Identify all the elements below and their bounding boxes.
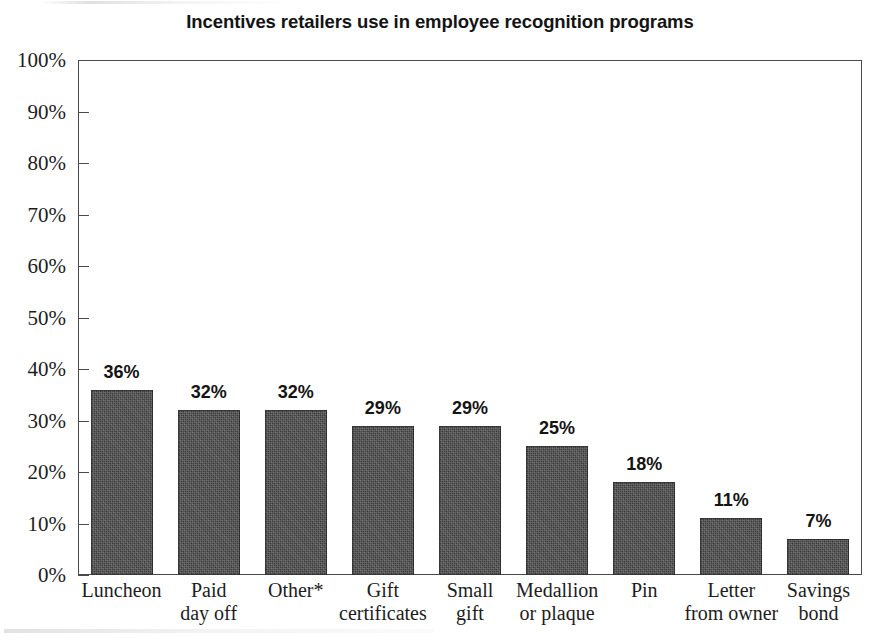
chart-title: Incentives retailers use in employee rec… [0,11,880,33]
y-axis-tick [78,421,89,422]
y-axis-tick-label: 70% [28,204,67,225]
y-axis-tick [78,472,89,473]
x-axis-category-label: Savingsbond [766,579,870,625]
bar [526,446,588,575]
y-axis-tick-label: 20% [28,462,67,483]
bar [787,539,849,575]
bar-group: 7% [787,60,849,575]
bar-value-label: 32% [166,382,252,403]
scan-artifact-bottom [4,629,434,633]
bar [439,426,501,575]
bar-group: 32% [178,60,240,575]
y-axis-tick-label: 0% [38,565,66,586]
y-axis-tick-label: 50% [28,307,67,328]
bar-value-label: 11% [688,490,774,511]
bar-group: 29% [352,60,414,575]
bar-chart: Incentives retailers use in employee rec… [0,0,880,638]
y-axis-tick [78,524,89,525]
bar [700,518,762,575]
bar-group: 25% [526,60,588,575]
bar [613,482,675,575]
bar-value-label: 7% [775,511,861,532]
bar [352,426,414,575]
bar-value-label: 25% [514,418,600,439]
y-axis-tick-labels: 0%10%20%30%40%50%60%70%80%90%100% [0,60,72,575]
x-axis-category-label-line: or plaque [505,602,609,625]
y-axis-tick [78,60,89,61]
y-axis-tick-label: 30% [28,410,67,431]
y-axis-tick-label: 60% [28,256,67,277]
y-axis-tick [78,575,89,576]
bar-value-label: 29% [427,398,513,419]
bar-group: 29% [439,60,501,575]
bar-value-label: 32% [253,382,339,403]
y-axis-tick-label: 80% [28,153,67,174]
x-axis-category-label-line: Savings [766,579,870,602]
bar-group: 36% [91,60,153,575]
bar-value-label: 36% [79,362,165,383]
y-axis-tick-label: 100% [17,50,66,71]
bar [178,410,240,575]
x-axis-category-label-line: bond [766,602,870,625]
scan-artifact-top [40,1,290,4]
y-axis-tick [78,318,89,319]
bar [91,390,153,575]
y-axis-tick-label: 10% [28,513,67,534]
y-axis-tick-label: 90% [28,101,67,122]
bar-group: 18% [613,60,675,575]
x-axis-tick-labels: LuncheonPaidday offOther*Giftcertificate… [78,579,862,631]
y-axis-tick [78,112,89,113]
y-axis-tick [78,163,89,164]
plot-area: 36%32%32%29%29%25%18%11%7% [78,60,862,575]
bar-value-label: 18% [601,454,687,475]
bar-group: 11% [700,60,762,575]
bar [265,410,327,575]
y-axis-tick [78,266,89,267]
y-axis-tick [78,215,89,216]
x-axis-category-label-line: day off [157,602,261,625]
bar-group: 32% [265,60,327,575]
bar-value-label: 29% [340,398,426,419]
y-axis-tick-label: 40% [28,359,67,380]
